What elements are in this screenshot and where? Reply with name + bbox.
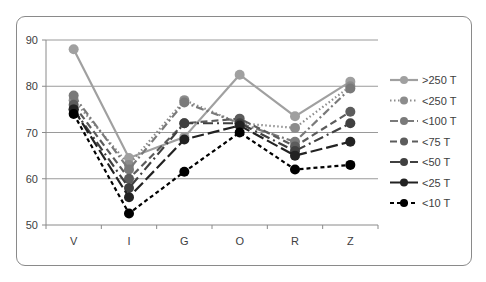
legend-item: <75 T	[390, 136, 451, 148]
data-point	[179, 118, 189, 128]
legend-label: <100 T	[422, 115, 457, 127]
series-4	[69, 104, 356, 193]
x-tick-label: O	[235, 235, 244, 247]
legend: >250 T<250 T<100 T<75 T<50 T<25 T<10 T	[390, 74, 457, 209]
axes: 5060708090VIGORZ	[26, 34, 378, 247]
line-chart: 5060708090VIGORZ >250 T<250 T<100 T<75 T…	[0, 0, 486, 282]
data-point	[179, 167, 189, 177]
legend-label: <25 T	[422, 177, 451, 189]
data-point	[124, 208, 134, 218]
legend-item: >250 T	[390, 74, 457, 86]
data-point	[179, 134, 189, 144]
data-point	[345, 160, 355, 170]
data-point	[290, 165, 300, 175]
legend-label: >250 T	[422, 74, 457, 86]
data-point	[124, 192, 134, 202]
series-2	[69, 84, 356, 175]
legend-item: <100 T	[390, 115, 457, 127]
data-point	[69, 44, 79, 54]
legend-marker	[400, 138, 408, 146]
y-tick-label: 50	[26, 219, 38, 231]
y-tick-label: 70	[26, 127, 38, 139]
x-tick-label: V	[70, 235, 78, 247]
legend-marker	[400, 179, 408, 187]
data-point	[69, 109, 79, 119]
series-5	[69, 104, 356, 202]
y-tick-label: 80	[26, 80, 38, 92]
y-tick-label: 60	[26, 173, 38, 185]
legend-marker	[400, 199, 408, 207]
y-tick-label: 90	[26, 34, 38, 46]
x-tick-label: R	[291, 235, 299, 247]
legend-label: <75 T	[422, 136, 451, 148]
data-point	[69, 91, 79, 101]
legend-item: <50 T	[390, 156, 451, 168]
data-point	[290, 123, 300, 133]
legend-item: <10 T	[390, 197, 451, 209]
legend-label: <10 T	[422, 197, 451, 209]
legend-label: <50 T	[422, 156, 451, 168]
data-point	[179, 97, 189, 107]
legend-marker	[400, 97, 408, 105]
data-point	[290, 111, 300, 121]
data-point	[345, 118, 355, 128]
x-tick-label: G	[180, 235, 189, 247]
data-point	[290, 151, 300, 161]
legend-item: <25 T	[390, 177, 451, 189]
legend-marker	[400, 117, 408, 125]
data-point	[235, 128, 245, 138]
data-point	[345, 107, 355, 117]
series-0	[69, 44, 356, 163]
data-point	[124, 165, 134, 175]
x-tick-label: I	[127, 235, 130, 247]
x-tick-label: Z	[347, 235, 354, 247]
data-point	[345, 137, 355, 147]
legend-item: <250 T	[390, 95, 457, 107]
data-point	[235, 70, 245, 80]
legend-label: <250 T	[422, 95, 457, 107]
series-lines	[69, 44, 356, 218]
legend-marker	[400, 76, 408, 84]
legend-marker	[400, 158, 408, 166]
data-point	[345, 84, 355, 94]
